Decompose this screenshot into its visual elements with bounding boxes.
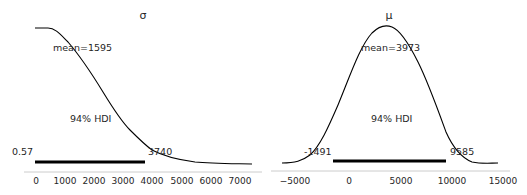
tick: 10000 (438, 176, 467, 186)
sigma-title: σ (140, 9, 147, 22)
tick: 6000 (200, 176, 223, 186)
mu-title: μ (386, 9, 393, 22)
sigma-hdi-high: 3740 (148, 146, 172, 157)
sigma-hdi-label: 94% HDI (70, 113, 111, 124)
mu-mean-label: mean=3973 (361, 42, 420, 53)
sigma-x-ticks: 0 1000 2000 3000 4000 5000 6000 7000 (33, 176, 252, 186)
tick: 15000 (489, 176, 518, 186)
tick: 7000 (229, 176, 252, 186)
sigma-hdi-low: 0.57 (12, 146, 33, 157)
tick: 3000 (112, 176, 135, 186)
tick: −5000 (280, 176, 311, 186)
mu-hdi-low: -1491 (304, 146, 332, 157)
tick: 0 (346, 176, 352, 186)
tick: 0 (33, 176, 39, 186)
figure: σ mean=1595 94% HDI 0.57 3740 0 1000 200… (0, 0, 527, 195)
tick: 2000 (83, 176, 106, 186)
tick: 1000 (54, 176, 77, 186)
mu-hdi-high: 9585 (450, 146, 474, 157)
mu-subplot: μ mean=3973 94% HDI -1491 9585 −5000 0 5… (271, 9, 518, 186)
mu-hdi-label: 94% HDI (371, 113, 412, 124)
sigma-mean-label: mean=1595 (53, 42, 112, 53)
tick: 4000 (141, 176, 164, 186)
tick: 5000 (171, 176, 194, 186)
tick: 5000 (390, 176, 413, 186)
sigma-subplot: σ mean=1595 94% HDI 0.57 3740 0 1000 200… (12, 9, 262, 186)
mu-x-ticks: −5000 0 5000 10000 15000 (280, 176, 518, 186)
